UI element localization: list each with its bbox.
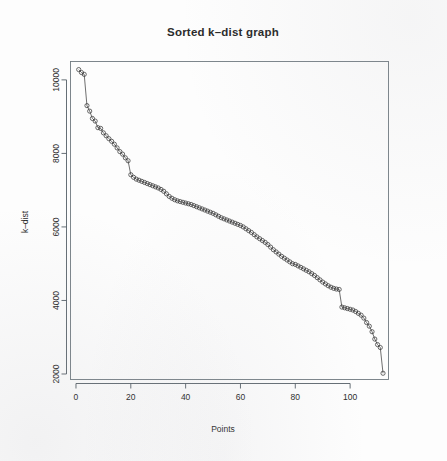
x-tick-label: 20 — [126, 392, 136, 402]
y-tick-label: 6000 — [52, 217, 62, 236]
x-tick-label: 100 — [343, 392, 357, 402]
y-axis: 200040006000800010000 — [52, 68, 67, 384]
y-tick-label: 2000 — [52, 364, 62, 383]
data-series-k-dist — [77, 67, 386, 375]
series-line — [79, 70, 383, 374]
x-tick-label: 40 — [181, 392, 191, 402]
plot-panel-frame — [71, 62, 389, 380]
x-axis: 020406080100 — [74, 384, 358, 402]
y-tick-label: 4000 — [52, 291, 62, 310]
x-tick-label: 80 — [291, 392, 301, 402]
y-axis-title: k–dist — [20, 210, 30, 233]
sorted-k-dist-plot: Sorted k–dist graph k–dist Points 020406… — [0, 0, 447, 461]
x-tick-label: 60 — [236, 392, 246, 402]
y-tick-label: 10000 — [52, 68, 62, 92]
chart-figure: Sorted k–dist graph k–dist Points 020406… — [0, 0, 447, 461]
y-tick-label: 8000 — [52, 144, 62, 163]
x-axis-title: Points — [211, 424, 235, 434]
chart-title: Sorted k–dist graph — [167, 26, 279, 38]
x-tick-label: 0 — [74, 392, 79, 402]
